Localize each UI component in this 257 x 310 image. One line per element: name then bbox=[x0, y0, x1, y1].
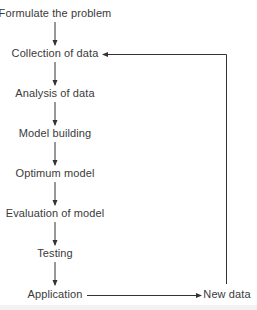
node-formulate-the-problem: Formulate the problem bbox=[0, 7, 111, 20]
node-evaluation-of-model: Evaluation of model bbox=[6, 207, 105, 220]
arrow-feedback-new-data-to-collection bbox=[103, 55, 227, 285]
node-optimum-model: Optimum model bbox=[16, 167, 95, 180]
bottom-edge-band bbox=[0, 305, 257, 310]
node-new-data: New data bbox=[203, 288, 250, 301]
node-application: Application bbox=[28, 288, 83, 301]
node-analysis-of-data: Analysis of data bbox=[15, 87, 94, 100]
node-testing: Testing bbox=[37, 247, 73, 260]
node-collection-of-data: Collection of data bbox=[12, 47, 99, 60]
node-model-building: Model building bbox=[19, 127, 91, 140]
